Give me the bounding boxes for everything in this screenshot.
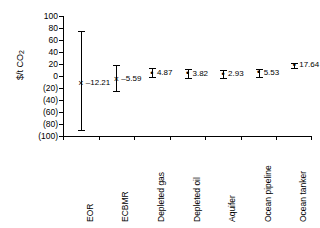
- x-axis-tick: [241, 136, 242, 140]
- y-axis-tick: [59, 40, 63, 41]
- y-axis-tick: [59, 88, 63, 89]
- y-axis-tick-label: 80: [18, 24, 58, 32]
- data-point-value-label: 5.53: [264, 69, 280, 77]
- data-point-value-label: 3.82: [193, 70, 209, 78]
- x-axis-category-label: Ocean pipeline: [263, 165, 273, 222]
- y-axis-tick: [59, 112, 63, 113]
- data-point-value-label: –12.21: [86, 79, 110, 87]
- error-bar-cap-upper: [78, 31, 85, 32]
- y-axis-tick: [59, 100, 63, 101]
- x-axis-tick: [311, 136, 312, 140]
- y-axis-tick-label: (100): [18, 132, 58, 140]
- y-axis-tick: [59, 76, 63, 77]
- y-axis-tick-label: (60): [18, 108, 58, 116]
- data-point-marker: •: [148, 70, 155, 77]
- y-axis-tick-label: 0: [18, 72, 58, 80]
- y-axis-tick-label: 100: [18, 12, 58, 20]
- y-axis-tick-label: 20: [18, 60, 58, 68]
- chart-container: $/t CO2 ×–12.21×–5.59•4.87•3.82•2.93•5.5…: [0, 0, 320, 228]
- data-point-marker: ×: [77, 80, 84, 87]
- error-bar-cap-lower: [78, 130, 85, 131]
- x-axis-tick: [205, 136, 206, 140]
- y-axis-tick-label: (40): [18, 96, 58, 104]
- data-point-value-label: 2.93: [228, 70, 244, 78]
- x-axis-category-label: Ocean tanker: [298, 171, 308, 222]
- y-axis-tick: [59, 52, 63, 53]
- x-axis-line: [63, 136, 312, 137]
- y-axis-tick-label: (20): [18, 84, 58, 92]
- x-axis-category-label: Depleted gas: [156, 172, 166, 222]
- x-axis-tick: [170, 136, 171, 140]
- x-axis-tick: [99, 136, 100, 140]
- x-axis-category-label: Aquifer: [227, 195, 237, 222]
- y-axis-tick: [59, 64, 63, 65]
- data-point-value-label: 4.87: [157, 69, 173, 77]
- error-bar-cap-upper: [113, 65, 120, 66]
- data-point-marker: •: [255, 69, 262, 76]
- error-bar-cap-lower: [113, 91, 120, 92]
- data-point-value-label: 17.64: [299, 61, 319, 69]
- y-axis-tick-label: (80): [18, 120, 58, 128]
- y-axis-tick-label: 40: [18, 48, 58, 56]
- y-axis-tick: [59, 28, 63, 29]
- x-axis-tick: [63, 136, 64, 140]
- x-axis-category-label: Depleted oil: [192, 177, 202, 222]
- plot-area: ×–12.21×–5.59•4.87•3.82•2.93•5.53•17.64: [63, 16, 312, 136]
- x-axis-category-label: EOR: [85, 204, 95, 222]
- data-point-marker: •: [291, 62, 298, 69]
- x-axis-category-label: ECBMR: [120, 191, 130, 222]
- data-point-marker: •: [220, 71, 227, 78]
- data-point-marker: •: [184, 70, 191, 77]
- data-point-value-label: –5.59: [121, 75, 141, 83]
- y-axis-tick: [59, 16, 63, 17]
- y-axis-line: [63, 16, 64, 136]
- y-axis-tick: [59, 124, 63, 125]
- y-axis-tick-label: 60: [18, 36, 58, 44]
- x-axis-tick: [134, 136, 135, 140]
- x-axis-tick: [276, 136, 277, 140]
- data-point-marker: ×: [113, 76, 120, 83]
